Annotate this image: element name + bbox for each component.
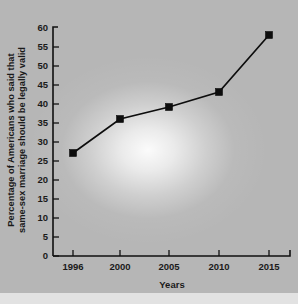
y-tick-label: 5 [43, 231, 49, 242]
y-tick-label: 20 [37, 174, 48, 185]
y-axis-ticks [53, 47, 59, 256]
x-axis-line [53, 250, 290, 256]
y-tick-label: 0 [43, 250, 48, 261]
y-tick-label: 30 [37, 136, 48, 147]
y-tick-label: 40 [37, 98, 48, 109]
data-point-marker [216, 89, 223, 96]
data-point-marker [117, 116, 124, 123]
y-tick-label: 55 [37, 41, 48, 52]
data-series-line [73, 35, 269, 153]
y-tick-label: 35 [37, 117, 48, 128]
y-tick-label: 25 [37, 155, 48, 166]
data-point-marker [70, 150, 77, 157]
x-axis-title: Years [159, 279, 184, 290]
y-tick-label: 50 [37, 60, 48, 71]
chart-figure: Percentage of Americans who said that sa… [0, 0, 298, 304]
y-axis-title: Percentage of Americans who said that sa… [6, 47, 27, 233]
y-axis-title-line-2: same-sex marriage should be legally vali… [17, 47, 27, 233]
x-tick-label: 2000 [109, 261, 130, 272]
x-tick-label: 2005 [158, 261, 180, 272]
y-tick-label: 10 [37, 212, 48, 223]
x-tick-label: 1996 [62, 261, 83, 272]
data-points [70, 32, 273, 157]
y-axis-title-line-1: Percentage of Americans who said that [6, 53, 16, 226]
line-chart: Percentage of Americans who said that sa… [0, 0, 298, 304]
x-tick-label: 2015 [258, 261, 280, 272]
y-tick-label: 60 [37, 22, 48, 33]
data-point-marker [166, 104, 173, 111]
x-axis-ticks [73, 250, 269, 256]
y-tick-label: 15 [37, 193, 48, 204]
x-axis-tick-labels: 1996 2000 2005 2010 2015 [62, 261, 280, 272]
data-point-marker [266, 32, 273, 39]
y-axis-tick-labels: 0 5 10 15 20 25 30 35 40 45 50 55 60 [37, 22, 48, 261]
bottom-margin-band [0, 293, 298, 304]
x-tick-label: 2010 [208, 261, 229, 272]
y-tick-label: 45 [37, 79, 48, 90]
